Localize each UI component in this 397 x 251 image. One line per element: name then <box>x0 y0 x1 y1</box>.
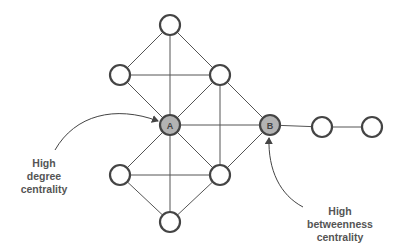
betweenness-arrow <box>269 138 303 207</box>
label-line: centrality <box>300 231 380 244</box>
edges <box>120 25 372 222</box>
node-right-1 <box>312 117 332 137</box>
label-line: centrality <box>10 183 78 196</box>
node-right-2 <box>362 117 382 137</box>
node-A: A <box>160 115 180 135</box>
node-bottom <box>160 212 180 232</box>
node-label: B <box>267 121 274 131</box>
label-line: High <box>300 205 380 218</box>
nodes: AB <box>110 15 382 232</box>
degree-centrality-label: High degree centrality <box>10 157 78 196</box>
degree-arrow <box>55 114 158 150</box>
label-line: degree <box>10 170 78 183</box>
label-line: betweenness <box>300 218 380 231</box>
node-lower-left <box>110 165 130 185</box>
betweenness-centrality-label: High betweenness centrality <box>300 205 380 244</box>
node-upper-right <box>210 65 230 85</box>
label-line: High <box>10 157 78 170</box>
node-B: B <box>260 115 280 135</box>
node-upper-left <box>110 65 130 85</box>
node-lower-right <box>210 165 230 185</box>
node-label: A <box>167 121 174 131</box>
node-top <box>160 15 180 35</box>
